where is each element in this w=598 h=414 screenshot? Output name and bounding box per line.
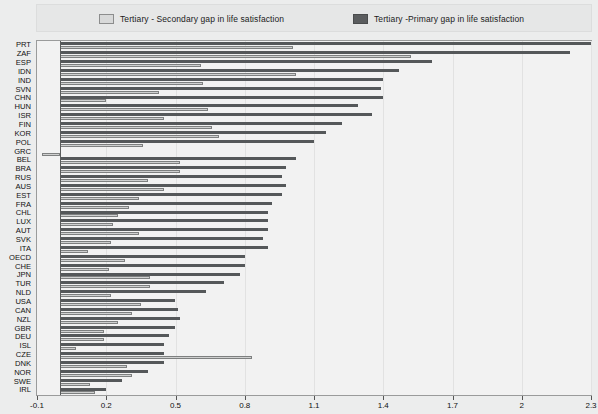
x-axis-tick-label: 0.2 (101, 401, 112, 410)
y-axis-label-ita: ITA (20, 245, 31, 253)
bar-secondary-gap (60, 188, 164, 191)
bar-secondary-gap (60, 197, 138, 200)
bar-primary-gap (60, 264, 245, 267)
y-axis-label-idn: IDN (18, 68, 31, 76)
bar-primary-gap (60, 343, 164, 346)
chart-legend: Tertiary - Secondary gap in life satisfa… (36, 4, 592, 32)
legend-swatch-light-square-icon (99, 14, 114, 24)
bar-secondary-gap (60, 55, 411, 58)
y-axis-label-che: CHE (15, 263, 31, 271)
bar-primary-gap (60, 219, 268, 222)
bar-secondary-gap (60, 391, 95, 394)
y-axis-label-fin: FIN (19, 121, 31, 129)
y-axis-label-nzl: NZL (17, 316, 31, 324)
y-axis-label-bel: BEL (17, 156, 31, 164)
bar-primary-gap (60, 60, 432, 63)
bar-secondary-gap (60, 232, 138, 235)
y-axis-label-kor: KOR (15, 130, 31, 138)
legend-entry-secondary-gap: Tertiary - Secondary gap in life satisfa… (99, 5, 284, 33)
bar-secondary-gap (60, 108, 208, 111)
bar-secondary-gap (60, 374, 132, 377)
bar-secondary-gap (60, 91, 159, 94)
bar-secondary-gap (60, 161, 180, 164)
x-axis-tick-label: 1.7 (447, 401, 458, 410)
bar-secondary-gap (60, 250, 88, 253)
bar-primary-gap (60, 104, 358, 107)
gridline (591, 41, 592, 395)
x-axis-tick (453, 396, 454, 400)
x-axis-tick-label: -0.1 (30, 401, 44, 410)
bar-primary-gap (60, 184, 286, 187)
bar-primary-gap (60, 131, 325, 134)
bar-primary-gap (60, 113, 372, 116)
y-axis-label-rus: RUS (15, 174, 31, 182)
x-axis-tick (37, 396, 38, 400)
y-axis-label-oecd: OECD (9, 254, 31, 262)
bar-secondary-gap (60, 330, 104, 333)
bar-secondary-gap (60, 365, 127, 368)
y-axis-label-chn: CHN (15, 94, 31, 102)
bar-primary-gap (60, 370, 148, 373)
y-axis-label-irl: IRL (19, 386, 31, 394)
y-axis-label-jpn: JPN (17, 271, 31, 279)
y-axis-label-svn: SVN (15, 86, 31, 94)
bar-secondary-gap (60, 383, 90, 386)
bar-primary-gap (60, 87, 381, 90)
bar-primary-gap (60, 78, 383, 81)
bar-secondary-gap (60, 347, 76, 350)
y-axis-label-ind: IND (18, 77, 31, 85)
y-axis-label-fra: FRA (16, 201, 31, 209)
bar-secondary-gap (60, 268, 108, 271)
legend-swatch-dark-square-icon (353, 14, 368, 24)
bar-secondary-gap (60, 117, 164, 120)
bar-primary-gap (60, 228, 268, 231)
legend-label-primary-gap: Tertiary -Primary gap in life satisfacti… (374, 14, 524, 24)
y-axis-label-isr: ISR (18, 112, 31, 120)
x-axis-tick (383, 396, 384, 400)
y-axis-label-nld: NLD (16, 289, 31, 297)
bar-secondary-gap (60, 126, 212, 129)
y-axis-label-aus: AUS (15, 183, 31, 191)
bar-secondary-gap (60, 356, 252, 359)
x-axis-tick-label: 2.3 (585, 401, 596, 410)
bar-primary-gap (60, 202, 272, 205)
y-axis-label-nor: NOR (14, 369, 31, 377)
x-axis-tick-label: 2 (520, 401, 524, 410)
bar-secondary-gap (60, 82, 203, 85)
x-axis-tick-label: 0.5 (170, 401, 181, 410)
x-axis-tick (522, 396, 523, 400)
y-axis-label-esp: ESP (16, 59, 31, 67)
bar-secondary-gap (60, 179, 148, 182)
y-axis-label-can: CAN (15, 307, 31, 315)
y-axis-label-dnk: DNK (15, 360, 31, 368)
bar-primary-gap (60, 361, 164, 364)
y-axis-label-pol: POL (16, 139, 31, 147)
x-axis-tick (176, 396, 177, 400)
bar-secondary-gap (60, 241, 111, 244)
y-axis-label-tur: TUR (15, 280, 31, 288)
bar-secondary-gap (60, 144, 143, 147)
bar-secondary-gap (60, 303, 141, 306)
y-axis-label-hun: HUN (15, 103, 31, 111)
x-axis-tick (245, 396, 246, 400)
y-axis-category-labels: PRTZAFESPIDNINDSVNCHNHUNISRFINKORPOLGRCB… (0, 40, 34, 396)
y-axis-label-lux: LUX (16, 218, 31, 226)
x-axis-tick (314, 396, 315, 400)
y-axis-label-chl: CHL (16, 209, 31, 217)
y-axis-label-grc: GRC (14, 148, 31, 156)
bar-primary-gap (60, 308, 178, 311)
y-axis-label-aut: AUT (16, 227, 31, 235)
bar-primary-gap (60, 42, 591, 45)
x-axis-tick-label: 1.4 (378, 401, 389, 410)
y-axis-label-zaf: ZAF (17, 50, 31, 58)
bar-primary-gap (60, 246, 268, 249)
y-axis-label-est: EST (16, 192, 31, 200)
bar-secondary-gap (60, 338, 104, 341)
bar-primary-gap (60, 166, 286, 169)
bar-secondary-gap (60, 276, 150, 279)
bar-primary-gap (60, 51, 570, 54)
bar-primary-gap (60, 352, 164, 355)
bar-primary-gap (60, 290, 205, 293)
y-axis-label-gbr: GBR (15, 325, 31, 333)
bar-secondary-gap (42, 153, 60, 156)
